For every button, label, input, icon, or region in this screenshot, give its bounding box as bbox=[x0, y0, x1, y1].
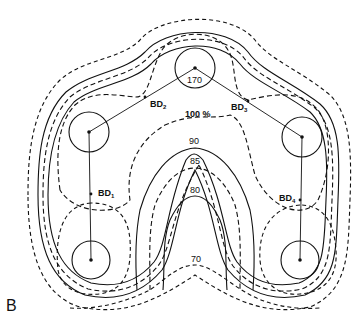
contour-label-90: 90 bbox=[189, 137, 199, 146]
source-dot-bottom-right bbox=[298, 258, 302, 262]
source-dot-right bbox=[300, 135, 304, 139]
source-dot-bottom-left bbox=[89, 258, 93, 262]
contour-label-100: 100 % bbox=[185, 110, 211, 119]
inner-solid-contour-left bbox=[48, 154, 203, 285]
bd4-prefix: BD bbox=[279, 193, 292, 203]
contour-label-170: 170 bbox=[187, 76, 202, 85]
bottom-left-dashed-loop bbox=[57, 203, 130, 294]
bd1-prefix: BD bbox=[98, 188, 111, 198]
bd3-prefix: BD bbox=[231, 102, 244, 112]
borehole-label-bd2: BD2 bbox=[150, 100, 166, 110]
bd4-point bbox=[299, 199, 302, 202]
source-dot-left bbox=[87, 130, 91, 134]
bottom-right-dashed-loop bbox=[260, 205, 336, 294]
borehole-label-bd3: BD3 bbox=[231, 103, 247, 113]
bd2-point bbox=[144, 96, 147, 99]
panel-label: B bbox=[6, 298, 17, 314]
bd2-prefix: BD bbox=[150, 99, 163, 109]
borehole-label-bd1: BD1 bbox=[98, 189, 114, 199]
source-dot-top bbox=[193, 66, 197, 70]
isodose-diagram: 170 100 % 90 85 80 70 BD1 BD2 BD3 BD4 B bbox=[0, 0, 364, 320]
contour-70 bbox=[70, 265, 320, 308]
contour-label-70: 70 bbox=[191, 255, 201, 264]
contour-label-80: 80 bbox=[190, 186, 200, 195]
contour-label-85: 85 bbox=[190, 157, 200, 166]
bd2-subscript: 2 bbox=[163, 104, 166, 110]
borehole-label-bd4: BD4 bbox=[279, 194, 295, 204]
bd1-point bbox=[90, 193, 93, 196]
bd4-subscript: 4 bbox=[292, 198, 295, 204]
bd3-point bbox=[247, 100, 250, 103]
bd3-subscript: 3 bbox=[244, 107, 247, 113]
bd1-subscript: 1 bbox=[111, 193, 114, 199]
contour-plot bbox=[0, 0, 364, 320]
